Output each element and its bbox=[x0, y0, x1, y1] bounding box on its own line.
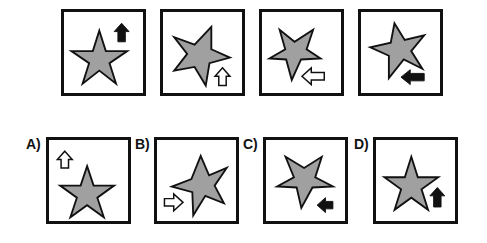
arrow-left-hollow-icon bbox=[302, 68, 324, 85]
sequence-panel-3 bbox=[259, 9, 344, 96]
option-label-c: C) bbox=[243, 136, 258, 152]
option-d[interactable] bbox=[373, 137, 458, 224]
option-label-d: D) bbox=[354, 136, 369, 152]
arrow-up-hollow-icon bbox=[215, 68, 230, 86]
option-c[interactable] bbox=[263, 137, 348, 224]
arrow-left-solid-icon bbox=[317, 198, 333, 213]
sequence-panel-1 bbox=[61, 9, 146, 96]
star-icon bbox=[163, 12, 242, 93]
option-label-a: A) bbox=[26, 136, 41, 152]
sequence-panel-2 bbox=[160, 9, 245, 96]
arrow-right-hollow-icon bbox=[164, 194, 183, 211]
star-icon bbox=[49, 140, 128, 221]
star-icon bbox=[376, 140, 455, 221]
option-b[interactable] bbox=[154, 137, 239, 224]
sequence-panel-4 bbox=[358, 9, 443, 96]
option-label-b: B) bbox=[135, 136, 150, 152]
star-icon bbox=[157, 140, 236, 221]
star-icon bbox=[266, 140, 345, 221]
option-a[interactable] bbox=[46, 137, 131, 224]
arrow-up-solid-icon bbox=[430, 187, 445, 207]
arrow-up-hollow-icon bbox=[57, 151, 72, 168]
star-icon bbox=[361, 12, 440, 93]
arrow-up-solid-icon bbox=[114, 23, 129, 42]
star-icon bbox=[64, 12, 143, 93]
arrow-left-solid-icon bbox=[401, 70, 424, 85]
star-icon bbox=[262, 12, 341, 93]
